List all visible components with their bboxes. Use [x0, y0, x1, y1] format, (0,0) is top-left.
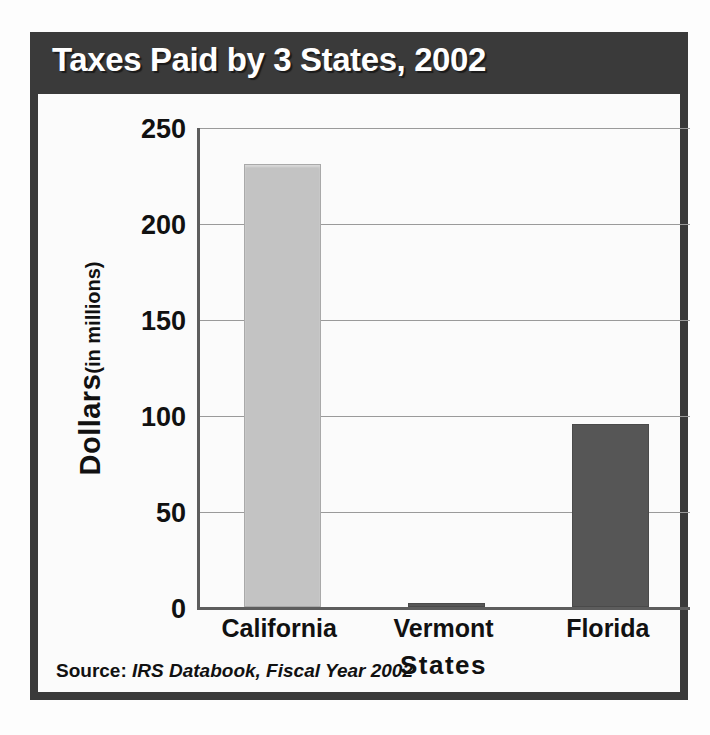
chart-title: Taxes Paid by 3 States, 2002 [52, 41, 486, 79]
chart-panel: Dollars(in millions) 250 200 150 100 50 … [38, 94, 680, 692]
bar-florida [572, 424, 649, 607]
bar-vermont [408, 603, 485, 607]
source-note: Source: IRS Databook, Fiscal Year 2002 [56, 660, 413, 682]
y-tick-label: 0 [171, 596, 186, 623]
y-tick-label: 150 [141, 308, 186, 335]
source-prefix: Source: [56, 660, 127, 681]
chart-frame: Taxes Paid by 3 States, 2002 Dollars(in … [30, 32, 688, 700]
source-reference: IRS Databook, Fiscal Year 2002 [132, 660, 413, 681]
bar-california [244, 164, 321, 607]
plot-wrapper: Dollars(in millions) 250 200 150 100 50 … [38, 94, 680, 692]
y-axis-ticks: 250 200 150 100 50 0 [98, 94, 186, 692]
chart-figure: Taxes Paid by 3 States, 2002 Dollars(in … [0, 0, 710, 735]
x-tick-label-vermont: Vermont [361, 614, 525, 643]
y-tick-label: 200 [141, 212, 186, 239]
gridline-250 [200, 128, 690, 129]
y-tick-label: 100 [141, 404, 186, 431]
plot-area [197, 128, 690, 610]
x-tick-label-california: California [197, 614, 361, 643]
x-tick-label-florida: Florida [526, 614, 690, 643]
title-bar: Taxes Paid by 3 States, 2002 [30, 32, 688, 94]
y-tick-label: 50 [156, 500, 186, 527]
y-tick-label: 250 [141, 116, 186, 143]
